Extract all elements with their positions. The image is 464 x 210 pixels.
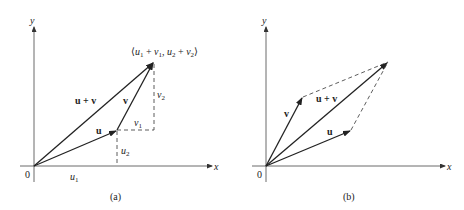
label-u2: u2 (121, 145, 130, 158)
caption-b: (b) (343, 191, 355, 203)
label-u-plus-v: u + v (316, 93, 337, 104)
label-u: u (327, 126, 333, 137)
label-v: v (123, 95, 128, 106)
vector-u (34, 131, 116, 166)
y-axis-label: y (261, 15, 267, 26)
origin-label: 0 (25, 169, 30, 180)
y-axis-label: y (29, 15, 35, 26)
panel-b: y x 0 u v u + v (b) (252, 15, 452, 203)
x-axis-label: x (213, 161, 219, 172)
x-axis-label: x (446, 161, 452, 172)
tip-coordinate-label: ⟨u1 + v1, u2 + v2⟩ (131, 46, 198, 59)
label-u-plus-v: u + v (75, 95, 96, 106)
label-u1: u1 (70, 171, 79, 184)
label-u: u (96, 125, 102, 136)
panel-a: y x 0 u v u + v u1 u2 v1 v2 ⟨u1 + v1, u2… (20, 15, 219, 203)
vector-u-plus-v (34, 63, 153, 166)
label-v2: v2 (157, 89, 165, 102)
origin-label: 0 (257, 169, 262, 180)
label-v1: v1 (134, 117, 142, 130)
vector-u (266, 131, 350, 166)
dashed-side-v-to-sum (303, 62, 388, 97)
vector-addition-figure: y x 0 u v u + v u1 u2 v1 v2 ⟨u1 + v1, u2… (0, 0, 464, 210)
dashed-side-u-to-sum (351, 62, 388, 130)
label-v: v (284, 108, 289, 119)
caption-a: (a) (110, 191, 121, 203)
